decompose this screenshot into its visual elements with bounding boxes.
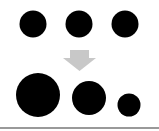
top-circle-1 <box>20 11 47 38</box>
diagram-canvas <box>0 0 159 131</box>
bottom-circle-1 <box>16 73 60 117</box>
top-circle-3 <box>112 11 139 38</box>
bottom-circle-3 <box>118 94 141 117</box>
baseline-divider <box>0 127 159 129</box>
top-row-equal-circles <box>20 11 139 38</box>
bottom-row-decreasing-circles <box>16 73 141 117</box>
bottom-circle-2 <box>72 81 106 115</box>
top-circle-2 <box>66 11 93 38</box>
down-arrow-icon <box>63 50 96 71</box>
